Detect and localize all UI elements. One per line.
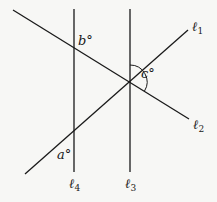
angle-label-c: c° xyxy=(141,67,155,80)
angle-label-b: b° xyxy=(78,34,93,47)
line-l2 xyxy=(13,10,189,119)
line-l1 xyxy=(25,30,188,174)
line-label-l1-sub: 1 xyxy=(197,26,203,36)
line-label-l4: ℓ4 xyxy=(69,177,80,190)
lines-svg xyxy=(0,0,217,202)
line-label-l2: ℓ2 xyxy=(193,118,204,131)
geometry-diagram: b° c° a° ℓ1 ℓ2 ℓ3 ℓ4 xyxy=(0,0,217,202)
line-label-l4-sub: 4 xyxy=(74,183,80,193)
line-label-l3-sub: 3 xyxy=(130,183,136,193)
line-label-l2-sub: 2 xyxy=(198,124,204,134)
line-label-l1: ℓ1 xyxy=(192,20,203,33)
angle-label-a: a° xyxy=(57,148,71,161)
line-label-l3: ℓ3 xyxy=(125,177,136,190)
